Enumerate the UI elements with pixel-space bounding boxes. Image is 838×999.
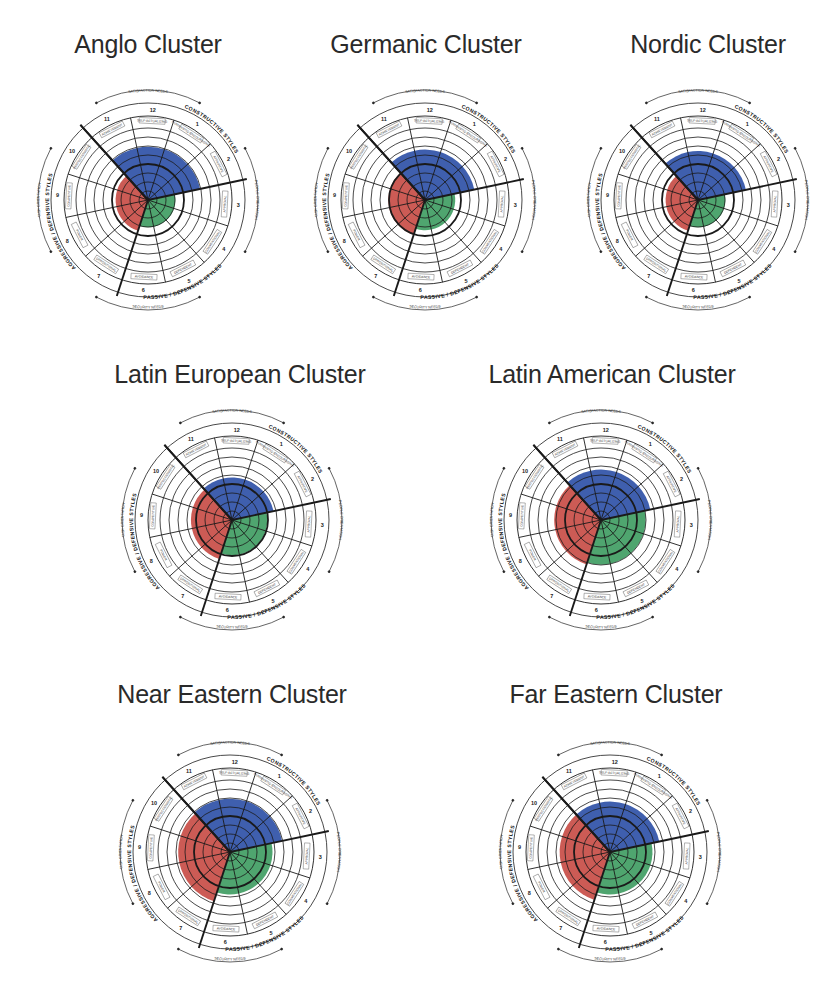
sector-number: 9 <box>509 512 512 518</box>
circumplex-chart: 1HUMANISTIC-ENCOURAGING2AFFILIATIVE3APPR… <box>481 400 721 640</box>
people-orientation-label: PEOPLE ORIENTATION <box>804 180 810 221</box>
sector-number: 1 <box>658 773 661 779</box>
circumplex-chart: 1HUMANISTIC-ENCOURAGING2AFFILIATIVE3APPR… <box>578 80 818 320</box>
sector-number: 6 <box>419 287 422 293</box>
circumplex-chart: 1HUMANISTIC-ENCOURAGING2AFFILIATIVE3APPR… <box>110 732 350 972</box>
sector-number: 6 <box>224 939 227 945</box>
sector-style-label: COMPETITIVE <box>529 837 534 859</box>
sector-number: 10 <box>151 800 157 806</box>
sector-number: 5 <box>641 598 644 604</box>
sector-number: 4 <box>675 566 679 572</box>
satisfaction-needs-label: SATISFACTION NEEDS <box>128 88 169 94</box>
cluster-label-aggressive-defensive: AGGRESSIVE / DEFENSIVE STYLES <box>497 492 530 591</box>
sector-number: 6 <box>692 287 695 293</box>
sector-number: 5 <box>650 930 653 936</box>
sector-style-label: ACHIEVEMENT <box>651 123 673 137</box>
sector-number: 10 <box>522 468 528 474</box>
sector-number: 4 <box>304 898 308 904</box>
sector-style-label: COMPETITIVE <box>520 505 525 527</box>
sector-number: 10 <box>69 148 75 154</box>
people-orientation-label: PEOPLE ORIENTATION <box>338 500 344 541</box>
sector-number: 12 <box>603 427 609 433</box>
sector-style-label: APPROVAL <box>222 195 227 212</box>
circumplex-chart: 1HUMANISTIC-ENCOURAGING2AFFILIATIVE3APPR… <box>305 80 545 320</box>
task-orientation-label: TASK ORIENTATION <box>120 502 125 537</box>
cluster-label-aggressive-defensive: AGGRESSIVE / DEFENSIVE STYLES <box>126 824 159 923</box>
sector-number: 3 <box>787 202 790 208</box>
sector-number: 12 <box>232 759 238 765</box>
task-orientation-label: TASK ORIENTATION <box>498 834 503 869</box>
task-orientation-label: TASK ORIENTATION <box>313 182 318 217</box>
sector-number: 3 <box>237 202 240 208</box>
people-orientation-label: PEOPLE ORIENTATION <box>254 180 260 221</box>
sector-number: 11 <box>557 436 563 442</box>
panel-title: Far Eastern Cluster <box>510 680 723 709</box>
circumplex-chart: 1HUMANISTIC-ENCOURAGING2AFFILIATIVE3APPR… <box>28 80 268 320</box>
task-orientation-label: TASK ORIENTATION <box>489 502 494 537</box>
sector-style-label: AVOIDANCE <box>597 926 616 931</box>
sector-style-label: APPROVAL <box>306 515 311 532</box>
panel-title: Near Eastern Cluster <box>117 680 346 709</box>
sector-number: 3 <box>690 522 693 528</box>
sector-number: 5 <box>465 278 468 284</box>
sector-number: 5 <box>738 278 741 284</box>
security-needs-label: SECURITY NEEDS <box>132 304 164 309</box>
sector-number: 2 <box>309 808 312 814</box>
security-needs-label: SECURITY NEEDS <box>409 304 441 309</box>
sector-style-label: APPROVAL <box>772 195 777 212</box>
sector-number: 2 <box>680 476 683 482</box>
sector-number: 4 <box>772 246 776 252</box>
satisfaction-needs-label: SATISFACTION NEEDS <box>590 740 631 746</box>
satisfaction-needs-label: SATISFACTION NEEDS <box>405 88 446 94</box>
sector-number: 1 <box>280 441 283 447</box>
sector-number: 12 <box>234 427 240 433</box>
sector-number: 9 <box>518 844 521 850</box>
sector-number: 1 <box>746 121 749 127</box>
sector-style-label: ACHIEVEMENT <box>183 775 205 789</box>
security-needs-label: SECURITY NEEDS <box>214 956 246 961</box>
sector-number: 6 <box>142 287 145 293</box>
people-orientation-label: PEOPLE ORIENTATION <box>531 180 537 221</box>
sector-style-label: ACHIEVEMENT <box>101 123 123 137</box>
sector-number: 7 <box>647 273 650 279</box>
circumplex-chart: 1HUMANISTIC-ENCOURAGING2AFFILIATIVE3APPR… <box>112 400 352 640</box>
panel-title: Nordic Cluster <box>630 30 786 59</box>
security-needs-label: SECURITY NEEDS <box>585 624 617 629</box>
sector-number: 1 <box>196 121 199 127</box>
cluster-label-aggressive-defensive: AGGRESSIVE / DEFENSIVE STYLES <box>321 172 354 271</box>
sector-number: 10 <box>531 800 537 806</box>
sector-style-label: APPROVAL <box>499 195 504 212</box>
cluster-label-aggressive-defensive: AGGRESSIVE / DEFENSIVE STYLES <box>128 492 161 591</box>
sector-number: 2 <box>311 476 314 482</box>
satisfaction-needs-label: SATISFACTION NEEDS <box>210 740 251 746</box>
sector-number: 2 <box>504 156 507 162</box>
sector-number: 6 <box>604 939 607 945</box>
sector-style-label: COMPETITIVE <box>617 185 622 207</box>
sector-number: 8 <box>150 558 153 564</box>
sector-number: 4 <box>306 566 310 572</box>
sector-number: 7 <box>559 925 562 931</box>
sector-number: 5 <box>270 930 273 936</box>
sector-style-label: AVOIDANCE <box>219 594 238 599</box>
sector-style-label: AVOIDANCE <box>412 274 431 279</box>
sector-number: 8 <box>616 238 619 244</box>
sector-number: 7 <box>550 593 553 599</box>
people-orientation-label: PEOPLE ORIENTATION <box>336 832 342 873</box>
sector-number: 1 <box>278 773 281 779</box>
sector-style-label: ACHIEVEMENT <box>378 123 400 137</box>
sector-number: 10 <box>619 148 625 154</box>
sector-style-label: ACHIEVEMENT <box>563 775 585 789</box>
sector-number: 1 <box>473 121 476 127</box>
sector-style-label: COMPETITIVE <box>67 185 72 207</box>
sector-number: 11 <box>104 116 110 122</box>
security-needs-label: SECURITY NEEDS <box>682 304 714 309</box>
sector-style-label: COMPETITIVE <box>344 185 349 207</box>
sector-number: 4 <box>222 246 226 252</box>
sector-style-label: APPROVAL <box>684 847 689 864</box>
sector-number: 9 <box>606 192 609 198</box>
security-needs-label: SECURITY NEEDS <box>594 956 626 961</box>
sector-number: 11 <box>654 116 660 122</box>
sector-number: 7 <box>374 273 377 279</box>
sector-number: 8 <box>343 238 346 244</box>
circumplex-chart: 1HUMANISTIC-ENCOURAGING2AFFILIATIVE3APPR… <box>490 732 730 972</box>
